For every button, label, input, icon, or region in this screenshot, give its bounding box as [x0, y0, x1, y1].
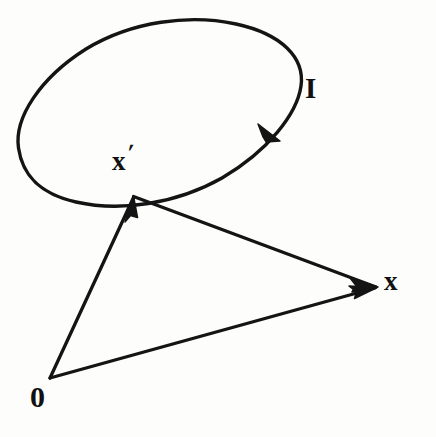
- current-loop: [18, 20, 301, 206]
- vector-origin-to-field-shaft: [50, 288, 375, 378]
- vector-diagram-figure: x′ x I 0: [0, 0, 436, 437]
- vector-origin-to-field: [50, 286, 377, 378]
- current-loop-label: I: [305, 74, 316, 103]
- vector-source-to-field-shaft: [134, 197, 377, 288]
- source-point-label: x′: [112, 148, 133, 175]
- vector-origin-to-source: [50, 196, 138, 378]
- source-point-label-text: x: [112, 146, 126, 176]
- vector-source-to-field: [134, 197, 379, 293]
- current-loop-path: [18, 20, 301, 206]
- diagram-canvas: [0, 0, 436, 437]
- field-point-label: x: [384, 268, 398, 295]
- vector-origin-to-source-shaft: [50, 198, 134, 379]
- origin-label: 0: [30, 382, 45, 412]
